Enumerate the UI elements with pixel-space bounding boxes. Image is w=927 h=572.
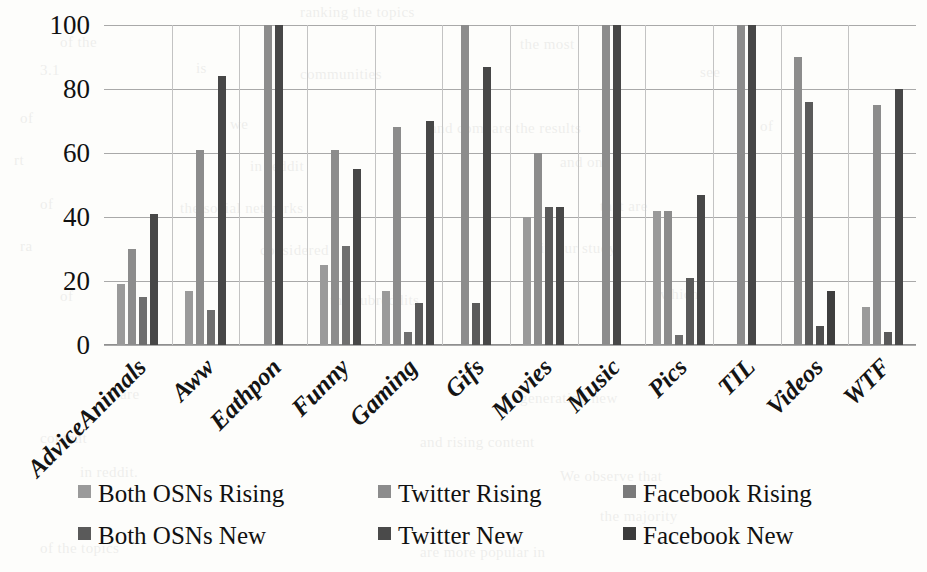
bar[interactable] <box>805 102 813 345</box>
bar[interactable] <box>523 217 531 345</box>
bar[interactable] <box>748 25 756 345</box>
bar[interactable] <box>275 25 283 345</box>
x-axis-label: Pics <box>643 353 693 403</box>
legend-label: Facebook New <box>643 523 794 548</box>
y-tick-label: 20 <box>63 268 90 295</box>
bar[interactable] <box>382 291 390 345</box>
bar[interactable] <box>218 76 226 345</box>
bar[interactable] <box>196 150 204 345</box>
bar[interactable] <box>483 67 491 345</box>
bar-group <box>645 25 713 345</box>
x-axis-labels: AdviceAnimalsAwwEathponFunnyGamingGifsMo… <box>104 345 916 465</box>
bar[interactable] <box>393 127 401 345</box>
x-axis-label: Eathpon <box>204 353 287 436</box>
bar[interactable] <box>117 284 125 345</box>
legend-label: Both OSNs New <box>98 523 266 548</box>
bar[interactable] <box>556 207 564 345</box>
x-axis-label: Music <box>560 353 625 418</box>
bar[interactable] <box>331 150 339 345</box>
bar[interactable] <box>207 310 215 345</box>
legend-label: Both OSNs Rising <box>98 481 284 506</box>
legend-item[interactable]: Twitter New <box>378 523 623 548</box>
bar[interactable] <box>128 249 136 345</box>
y-tick-label: 80 <box>63 76 90 103</box>
legend-swatch-icon <box>378 485 391 498</box>
plot-area <box>104 25 916 345</box>
y-tick-label: 40 <box>63 204 90 231</box>
bar[interactable] <box>794 57 802 345</box>
bar[interactable] <box>139 297 147 345</box>
bar[interactable] <box>613 25 621 345</box>
x-axis-label: WTF <box>838 353 896 411</box>
bar[interactable] <box>816 326 824 345</box>
legend-item[interactable]: Facebook Rising <box>623 481 878 506</box>
bar[interactable] <box>264 25 272 345</box>
bar[interactable] <box>602 25 610 345</box>
legend-label: Facebook Rising <box>643 481 812 506</box>
legend-item[interactable]: Twitter Rising <box>378 481 623 506</box>
bar[interactable] <box>686 278 694 345</box>
bar[interactable] <box>653 211 661 345</box>
bar-chart-figure: 020406080100 AdviceAnimalsAwwEathponFunn… <box>0 0 927 572</box>
x-axis-label: Gaming <box>344 353 423 432</box>
bar-group <box>713 25 781 345</box>
bar[interactable] <box>461 25 469 345</box>
legend-swatch-icon <box>623 527 636 540</box>
bar[interactable] <box>534 153 542 345</box>
legend-label: Twitter New <box>398 523 523 548</box>
bar-group <box>848 25 916 345</box>
bar[interactable] <box>884 332 892 345</box>
bar[interactable] <box>150 214 158 345</box>
legend-item[interactable]: Both OSNs New <box>78 523 378 548</box>
x-axis-label: Aww <box>165 353 219 407</box>
legend-swatch-icon <box>78 485 91 498</box>
bar-group <box>239 25 307 345</box>
bar[interactable] <box>415 303 423 345</box>
bar[interactable] <box>664 211 672 345</box>
legend-item[interactable]: Both OSNs Rising <box>78 481 378 506</box>
x-axis-label: Videos <box>760 353 828 421</box>
bar[interactable] <box>545 207 553 345</box>
bar[interactable] <box>862 307 870 345</box>
x-axis-label: Movies <box>486 353 558 425</box>
bar[interactable] <box>185 291 193 345</box>
legend-swatch-icon <box>78 527 91 540</box>
y-tick-label: 0 <box>77 332 91 359</box>
bar[interactable] <box>675 335 683 345</box>
bar-group <box>781 25 849 345</box>
bar[interactable] <box>404 332 412 345</box>
bar-group <box>375 25 443 345</box>
x-axis-label: AdviceAnimals <box>22 353 152 483</box>
legend-swatch-icon <box>623 485 636 498</box>
bar[interactable] <box>697 195 705 345</box>
bar-group <box>578 25 646 345</box>
y-tick-label: 100 <box>50 12 91 39</box>
bar[interactable] <box>895 89 903 345</box>
y-tick-label: 60 <box>63 140 90 167</box>
bar[interactable] <box>873 105 881 345</box>
x-axis-label: TIL <box>712 353 760 401</box>
bar-group <box>510 25 578 345</box>
bar-group <box>104 25 172 345</box>
legend-item[interactable]: Facebook New <box>623 523 878 548</box>
legend-swatch-icon <box>378 527 391 540</box>
bar[interactable] <box>472 303 480 345</box>
y-axis: 020406080100 <box>0 25 90 345</box>
bar[interactable] <box>827 291 835 345</box>
x-axis-label: Gifs <box>440 353 490 403</box>
bar[interactable] <box>737 25 745 345</box>
bar[interactable] <box>342 246 350 345</box>
chart-legend: Both OSNs RisingTwitter RisingFacebook R… <box>78 472 878 556</box>
bar[interactable] <box>320 265 328 345</box>
bar[interactable] <box>426 121 434 345</box>
legend-label: Twitter Rising <box>398 481 541 506</box>
bar-group <box>307 25 375 345</box>
bar-group <box>172 25 240 345</box>
bar[interactable] <box>353 169 361 345</box>
bar-group <box>442 25 510 345</box>
